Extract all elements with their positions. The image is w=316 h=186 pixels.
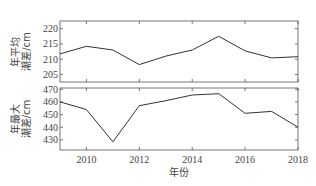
x-tick-label: 2018 xyxy=(288,154,308,165)
y-tick-label: 450 xyxy=(43,109,58,120)
y-tick-label: 210 xyxy=(43,54,58,65)
x-axis-ticks xyxy=(86,21,298,82)
x-tick-label: 2012 xyxy=(129,154,149,165)
x-tick-label: 2016 xyxy=(235,154,255,165)
x-axis-ticks: 20102012201420162018 xyxy=(76,88,308,165)
y-axis-title: 年最大潮差/cm xyxy=(9,100,32,139)
y-tick-label: 460 xyxy=(43,96,58,107)
data-line xyxy=(60,36,298,64)
y-tick-label: 205 xyxy=(43,69,58,80)
chart: 205210215220 年平均潮差/cm 430440450460470 20… xyxy=(0,0,316,186)
y-tick-label: 220 xyxy=(43,23,58,34)
panel-annual-mean-tidal-range: 205210215220 年平均潮差/cm xyxy=(9,21,298,82)
x-tick-label: 2014 xyxy=(182,154,202,165)
panel-annual-max-tidal-range: 430440450460470 20102012201420162018 年最大… xyxy=(9,84,308,178)
y-tick-label: 440 xyxy=(43,122,58,133)
y-tick-label: 430 xyxy=(43,134,58,145)
axes-frame xyxy=(60,88,298,150)
y-tick-label: 470 xyxy=(43,84,58,95)
data-line xyxy=(60,94,298,142)
y-axis-title: 年平均潮差/cm xyxy=(9,32,32,71)
y-axis-ticks: 430440450460470 xyxy=(43,84,298,146)
y-axis-ticks: 205210215220 xyxy=(43,23,298,80)
x-tick-label: 2010 xyxy=(76,154,96,165)
axes-frame xyxy=(60,21,298,82)
y-tick-label: 215 xyxy=(43,38,58,49)
x-axis-title: 年份 xyxy=(169,166,189,178)
